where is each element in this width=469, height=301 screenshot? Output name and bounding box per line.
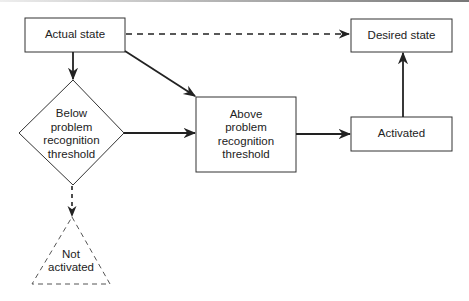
label-actual-state: Actual state — [25, 18, 125, 52]
label-activated: Activated — [351, 117, 452, 151]
label-desired-state: Desired state — [351, 19, 452, 52]
label-above-threshold: Above problem recognition threshold — [196, 97, 296, 172]
label-below-threshold: Below problem recognition threshold — [19, 106, 124, 162]
label-not-activated: Not activated — [32, 246, 110, 276]
edge-actual-to-above — [125, 51, 195, 96]
